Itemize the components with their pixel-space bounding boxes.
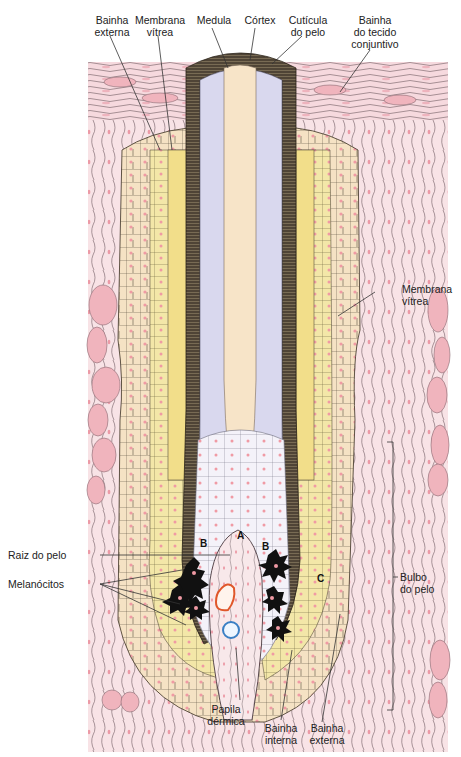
vitreous-strip-left <box>168 150 188 480</box>
label-membrana-vitrea-top: Membrana vítrea <box>130 14 190 38</box>
label-bulbo-do-pelo: Bulbo do pelo <box>400 571 450 595</box>
region-letter-c: C <box>317 573 324 584</box>
label-bainha-interna: Bainha interna <box>258 722 304 746</box>
label-bainha-do-tecido-conjuntivo: Bainha do tecido conjuntivo <box>340 14 410 50</box>
label-membrana-vitrea-right: Membrana vítrea <box>402 283 461 307</box>
label-papila-dermica: Papila dérmica <box>196 703 256 727</box>
label-cuticula-do-pelo: Cutícula do pelo <box>282 14 334 38</box>
vein-icon <box>223 622 239 638</box>
label-bainha-externa-bottom: Bainha externa <box>304 722 350 746</box>
region-letter-b-left: B <box>200 538 207 549</box>
region-letter-b-right: B <box>262 541 269 552</box>
hair-follicle-diagram <box>0 0 461 757</box>
vitreous-strip-right <box>296 150 314 480</box>
region-letter-a: A <box>237 530 244 541</box>
label-medula: Medula <box>192 14 236 26</box>
label-cortex: Córtex <box>240 14 280 26</box>
label-melanocitos: Melanócitos <box>8 578 103 590</box>
label-raiz-do-pelo: Raiz do pelo <box>8 549 103 561</box>
